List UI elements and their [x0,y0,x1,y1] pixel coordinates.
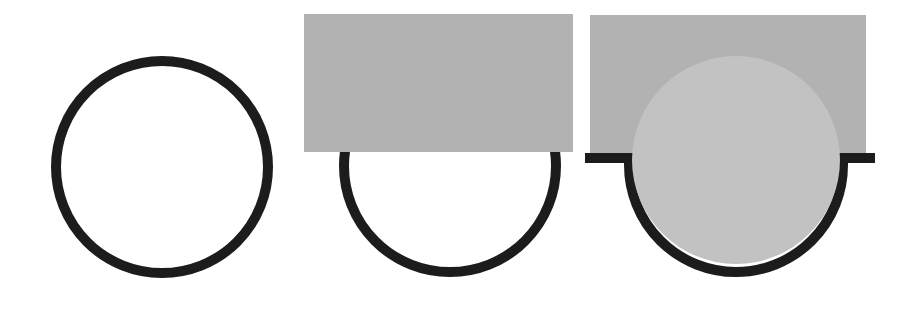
panel-1-circle [56,61,268,273]
panel-3-disc-in-cup [585,15,875,272]
diagram-canvas [0,0,910,314]
panel-2-rect-over-circle [304,14,573,272]
